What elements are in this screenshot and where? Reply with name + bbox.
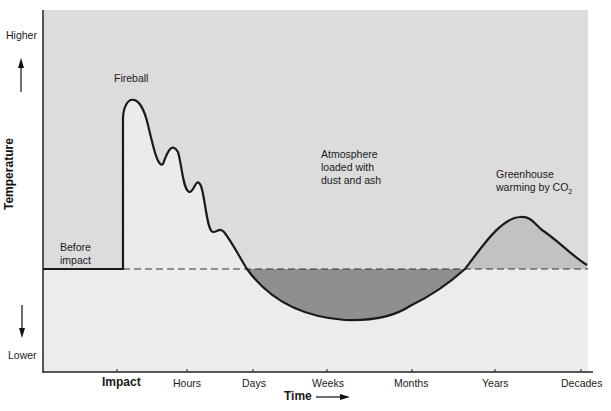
temperature-chart xyxy=(0,0,611,411)
fireball-label: Fireball xyxy=(114,72,148,85)
tick-hours: Hours xyxy=(173,377,201,390)
y-higher-label: Higher xyxy=(6,29,37,42)
tick-decades: Decades xyxy=(561,377,602,390)
arrow-right-icon xyxy=(316,394,350,400)
dust-label: Atmosphere loaded with dust and ash xyxy=(321,148,381,187)
tick-impact: Impact xyxy=(102,376,141,389)
greenhouse-label: Greenhouse warming by CO2 xyxy=(496,168,572,198)
tick-months: Months xyxy=(394,377,428,390)
before-impact-label: Before impact xyxy=(60,241,91,267)
tick-weeks: Weeks xyxy=(312,377,344,390)
tick-years: Years xyxy=(482,377,508,390)
arrow-down-icon xyxy=(19,305,25,338)
tick-days: Days xyxy=(242,377,266,390)
arrow-up-icon xyxy=(18,58,24,92)
y-lower-label: Lower xyxy=(8,349,37,362)
y-axis-label: Temperature xyxy=(2,138,16,210)
x-axis-label: Time xyxy=(284,390,312,403)
